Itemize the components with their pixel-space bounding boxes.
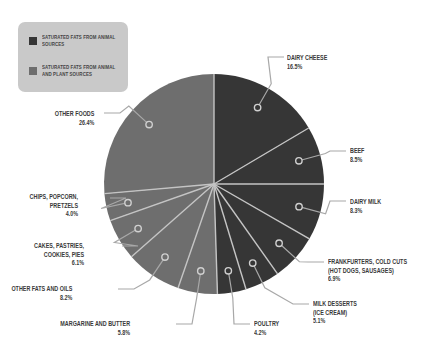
slice-marker-icon	[276, 240, 282, 246]
slice-marker-icon	[162, 254, 168, 260]
label-frankfurters: FRANKFURTERS, COLD CUTS (HOT DOGS, SAUSA…	[328, 258, 424, 284]
label-chips-popcorn: CHIPS, POPCORN, PRETZELS 4.0%	[19, 193, 78, 219]
label-other-foods: OTHER FOODS 26.4%	[46, 110, 94, 127]
label-other-fats-oils: OTHER FATS AND OILS 8.2%	[0, 285, 72, 302]
label-poultry: POULTRY 4.2%	[254, 320, 285, 337]
slice-marker-icon	[198, 268, 204, 274]
slice-marker-icon	[125, 199, 131, 205]
slice-marker-icon	[146, 121, 152, 127]
slice-marker-icon	[225, 268, 231, 274]
slice-marker-icon	[250, 260, 256, 266]
slice-marker-icon	[296, 158, 302, 164]
label-dairy-cheese: DAIRY CHEESE 16.5%	[287, 54, 336, 71]
label-cakes-pastries: CAKES, PASTRIES, COOKIES, PIES 6.1%	[23, 242, 84, 268]
label-dairy-milk: DAIRY MILK 8.3%	[350, 198, 388, 215]
slice-marker-icon	[254, 104, 260, 110]
label-milk-desserts: MILK DESSERTS (ICE CREAM) 5.1%	[313, 300, 367, 326]
label-margarine-butter: MARGARINE AND BUTTER 5.8%	[45, 320, 130, 337]
slice-marker-icon	[135, 225, 141, 231]
pie-slice	[104, 74, 214, 194]
label-beef: BEEF 8.5%	[350, 147, 368, 164]
slice-marker-icon	[296, 203, 302, 209]
